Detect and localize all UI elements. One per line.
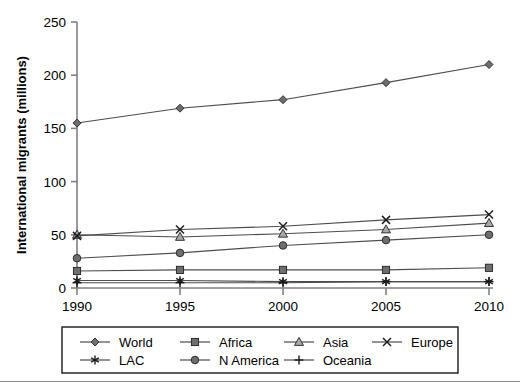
marker-square	[73, 267, 80, 274]
legend-label: Asia	[323, 335, 349, 350]
y-axis-tick-label: 250	[43, 15, 66, 30]
series-asia	[73, 218, 494, 240]
page-footer-rule	[0, 381, 520, 382]
marker-plus	[485, 277, 494, 286]
series-world	[73, 61, 493, 128]
line-chart-plot: 05010015020025019901995200020052010Inter…	[0, 0, 520, 391]
series-oceania	[73, 277, 494, 287]
legend-label: World	[119, 335, 153, 350]
marker-diamond	[176, 104, 184, 112]
x-axis-tick-label: 1990	[62, 299, 92, 314]
marker-diamond	[382, 79, 390, 87]
marker-square	[176, 266, 183, 273]
marker-square-legend	[191, 338, 198, 345]
y-axis-title: International migrants (millions)	[14, 56, 29, 254]
y-axis-tick-label: 150	[43, 121, 66, 136]
marker-circle-legend	[191, 356, 199, 364]
marker-square	[485, 264, 492, 271]
y-axis-tick-label: 50	[51, 228, 66, 243]
marker-diamond	[485, 61, 493, 69]
marker-square	[382, 266, 389, 273]
x-axis-tick-label: 2005	[371, 299, 401, 314]
y-axis-tick-label: 0	[58, 281, 66, 296]
legend-label: Europe	[411, 335, 453, 350]
series-line	[77, 65, 489, 124]
marker-triangle	[485, 218, 494, 226]
legend-label: LAC	[119, 353, 144, 368]
marker-diamond	[279, 96, 287, 104]
legend-label: N America	[219, 353, 280, 368]
marker-circle	[485, 231, 493, 239]
legend-label: Africa	[219, 335, 253, 350]
legend-label: Oceania	[323, 353, 372, 368]
chart-figure: 05010015020025019901995200020052010Inter…	[0, 0, 520, 391]
x-axis-tick-label: 2010	[474, 299, 504, 314]
marker-circle	[176, 249, 184, 257]
series-africa	[73, 264, 492, 274]
y-axis-tick-label: 100	[43, 175, 66, 190]
x-axis-tick-label: 2000	[268, 299, 298, 314]
marker-diamond	[73, 119, 81, 127]
y-axis-tick-label: 200	[43, 68, 66, 83]
marker-circle	[382, 236, 390, 244]
marker-circle	[73, 254, 81, 262]
x-axis-tick-label: 1995	[165, 299, 195, 314]
marker-square	[279, 266, 286, 273]
marker-plus	[382, 277, 391, 286]
marker-circle	[279, 242, 287, 250]
